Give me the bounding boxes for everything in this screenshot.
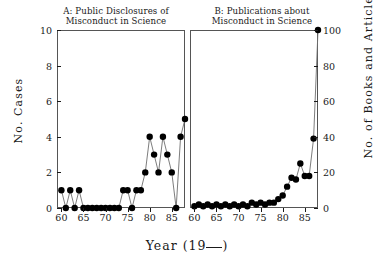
y-tick-mark bbox=[314, 30, 318, 31]
y-tick-label: 80 bbox=[323, 60, 335, 71]
y-tick-mark bbox=[314, 172, 318, 173]
panel-a-series bbox=[57, 30, 185, 208]
y-tick-mark bbox=[57, 172, 61, 173]
panel-b-title-line1: B: Publications about bbox=[192, 6, 332, 16]
y-tick-label: 4 bbox=[46, 131, 52, 142]
x-tick-label: 70 bbox=[233, 212, 245, 223]
data-point bbox=[76, 187, 82, 193]
data-point bbox=[177, 134, 183, 140]
y-tick-mark bbox=[57, 208, 61, 209]
panel-a-title-line2: Misconduct in Science bbox=[46, 16, 186, 26]
y-tick-mark bbox=[57, 137, 61, 138]
x-tick-label: 80 bbox=[144, 212, 156, 223]
data-point bbox=[124, 187, 130, 193]
data-point bbox=[138, 187, 144, 193]
data-point bbox=[284, 183, 290, 189]
data-point bbox=[71, 205, 77, 211]
figure-root: A: Public Disclosures of Misconduct in S… bbox=[0, 0, 374, 265]
panel-a-title: A: Public Disclosures of Misconduct in S… bbox=[46, 6, 186, 26]
y-tick-label: 2 bbox=[46, 167, 52, 178]
x-tick-label: 85 bbox=[166, 212, 178, 223]
x-tick-label: 65 bbox=[210, 212, 222, 223]
right-y-axis-label: No. of Books and Articles bbox=[362, 47, 374, 159]
y-tick-label: 0 bbox=[323, 203, 329, 214]
data-point bbox=[155, 169, 161, 175]
x-tick-label: 60 bbox=[55, 212, 67, 223]
panel-b-series bbox=[190, 30, 318, 208]
data-point bbox=[293, 176, 299, 182]
data-point bbox=[173, 205, 179, 211]
x-axis-label-suffix: ) bbox=[222, 238, 228, 253]
y-tick-mark bbox=[57, 30, 61, 31]
x-tick-label: 75 bbox=[122, 212, 134, 223]
panel-b-title-line2: Misconduct in Science bbox=[192, 16, 332, 26]
y-tick-mark bbox=[57, 66, 61, 67]
y-tick-mark bbox=[314, 208, 318, 209]
data-point bbox=[58, 187, 64, 193]
y-tick-label: 40 bbox=[323, 131, 335, 142]
y-tick-label: 100 bbox=[323, 25, 341, 36]
x-tick-label: 85 bbox=[299, 212, 311, 223]
x-axis-label-prefix: Year (19 bbox=[146, 238, 207, 253]
data-point bbox=[164, 151, 170, 157]
series-line bbox=[61, 119, 185, 208]
y-tick-label: 60 bbox=[323, 96, 335, 107]
y-tick-label: 20 bbox=[323, 167, 335, 178]
left-y-axis-label: No. Cases bbox=[12, 67, 25, 155]
data-point bbox=[169, 169, 175, 175]
x-tick-label: 65 bbox=[77, 212, 89, 223]
x-axis-label-blank bbox=[206, 247, 222, 248]
series-line bbox=[194, 30, 318, 206]
panel-a-title-line1: A: Public Disclosures of bbox=[46, 6, 186, 16]
x-tick-label: 60 bbox=[188, 212, 200, 223]
data-point bbox=[63, 205, 69, 211]
y-tick-label: 0 bbox=[46, 203, 52, 214]
data-point bbox=[129, 205, 135, 211]
data-point bbox=[67, 187, 73, 193]
y-tick-mark bbox=[314, 66, 318, 67]
data-point bbox=[297, 160, 303, 166]
data-point bbox=[182, 116, 188, 122]
y-tick-mark bbox=[314, 101, 318, 102]
y-tick-label: 6 bbox=[46, 96, 52, 107]
x-axis-label: Year (19) bbox=[0, 238, 374, 253]
panel-a-plot-area: 0246810606570758085 bbox=[57, 30, 185, 208]
panel-b-plot-area: 020406080100606570758085 bbox=[190, 30, 318, 208]
data-point bbox=[146, 134, 152, 140]
x-tick-label: 80 bbox=[277, 212, 289, 223]
x-tick-label: 70 bbox=[100, 212, 112, 223]
y-tick-label: 8 bbox=[46, 60, 52, 71]
panel-b-title: B: Publications about Misconduct in Scie… bbox=[192, 6, 332, 26]
data-point bbox=[151, 151, 157, 157]
y-tick-label: 10 bbox=[40, 25, 52, 36]
data-point bbox=[116, 205, 122, 211]
y-tick-mark bbox=[314, 137, 318, 138]
data-point bbox=[142, 169, 148, 175]
y-tick-mark bbox=[57, 101, 61, 102]
data-point bbox=[279, 192, 285, 198]
data-point bbox=[306, 173, 312, 179]
data-point bbox=[160, 134, 166, 140]
x-tick-label: 75 bbox=[255, 212, 267, 223]
